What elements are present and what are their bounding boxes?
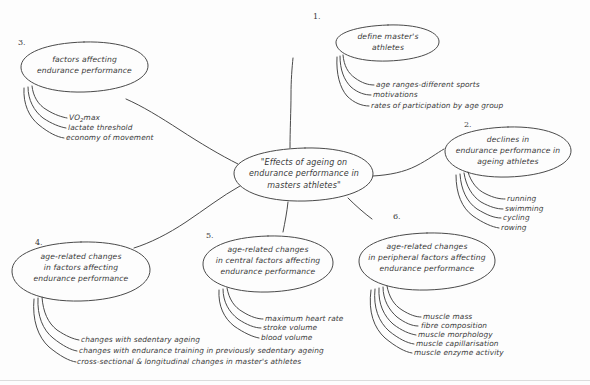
node-6-outline: [359, 233, 495, 290]
node-1-outline: [336, 25, 439, 61]
node-3-leaf-3: economy of movement: [66, 134, 154, 141]
node-1-leaf-2: motivations: [373, 91, 418, 98]
edge-4-leaf-3: [34, 299, 76, 362]
node-2-number: 2.: [464, 120, 472, 129]
node-2-leaf-3: cycling: [503, 214, 530, 221]
node-6-leaf-2: fibre composition: [421, 322, 487, 329]
node-3-outline: [21, 42, 148, 92]
node-5-leaf-3: blood volume: [261, 334, 312, 341]
edge-5-leaf-3: [219, 290, 259, 338]
edge-6-leaf-4: [375, 289, 414, 344]
node-4-leaf-1: changes with sedentary ageing: [81, 336, 200, 343]
node-5-leaf-2: stroke volume: [263, 324, 317, 331]
node-1-leaf-3: rates of participation by age group: [371, 102, 503, 109]
mindmap-canvas: "Effects of ageing on endurance performa…: [0, 0, 590, 385]
node-6-leaf-5: muscle enzyme activity: [414, 349, 504, 356]
edge-2-leaf-2: [464, 173, 503, 209]
edge-3-leaf-3: [24, 88, 64, 138]
edge-6-leaf-5: [370, 290, 412, 353]
edge-central-to-5: [283, 202, 288, 232]
node-4-leaf-2: changes with endurance training in previ…: [79, 347, 324, 354]
edge-central-to-3: [126, 99, 238, 164]
node-2-leaf-1: running: [507, 195, 536, 202]
edge-2-leaf-4: [456, 175, 499, 228]
node-4-leaf-3: cross-sectional & longitudinal changes i…: [77, 358, 301, 365]
edge-central-to-1: [290, 58, 293, 148]
node-1-number: 1.: [313, 12, 321, 21]
edge-4-leaf-2: [38, 298, 77, 351]
edge-6-leaf-3: [379, 288, 416, 335]
edge-1-leaf-3: [337, 57, 369, 106]
edge-central-to-2: [373, 149, 444, 176]
node-3-number: 3.: [18, 38, 26, 47]
node-2-outline: [445, 127, 571, 177]
node-4-outline: [12, 242, 150, 301]
node-5-number: 5.: [206, 231, 214, 240]
node-1-leaf-1: age ranges-different sports: [376, 81, 480, 88]
edge-4-leaf-1: [42, 297, 79, 340]
node-6-leaf-3: muscle morphology: [418, 331, 493, 338]
central-node-outline: [234, 148, 373, 201]
node-2-leaf-4: rowing: [501, 224, 527, 231]
node-6-leaf-4: muscle capillarisation: [416, 340, 499, 347]
node-5-leaf-1: maximum heart rate: [265, 315, 343, 322]
node-4-number: 4.: [35, 238, 43, 247]
edge-central-to-4: [134, 186, 240, 248]
node-5-outline: [203, 236, 333, 292]
edge-central-to-6: [348, 198, 372, 219]
edge-1-leaf-1: [343, 55, 374, 85]
node-3-leaf-2: lactate threshold: [68, 124, 133, 131]
node-6-number: 6.: [393, 212, 401, 221]
node-2-leaf-2: swimming: [505, 205, 544, 212]
node-6-leaf-1: muscle mass: [423, 313, 472, 320]
